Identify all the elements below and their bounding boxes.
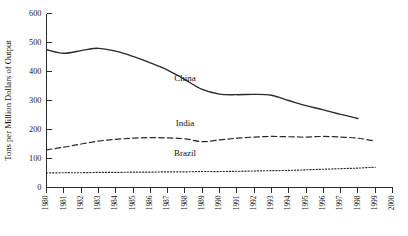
- x-tick-label: 1992: [249, 195, 258, 210]
- x-tick-label: 1997: [335, 195, 344, 210]
- y-tick-label: 200: [29, 125, 41, 134]
- x-tick-label: 1988: [180, 195, 189, 210]
- x-tick-label: 2000: [387, 195, 396, 210]
- series-label-china: China: [174, 73, 196, 83]
- x-tick-label: 1995: [301, 195, 310, 210]
- y-tick-label: 0: [37, 183, 41, 192]
- series-line-brazil: [47, 167, 376, 173]
- x-tick-label: 1986: [145, 195, 154, 210]
- x-tick-label: 1996: [318, 195, 327, 210]
- x-tick-label: 1999: [370, 195, 379, 210]
- series-line-china: [47, 48, 358, 118]
- x-tick-label: 1990: [214, 195, 223, 210]
- chart-container: 0100200300400500600198019811982198319841…: [0, 0, 408, 236]
- x-tick-label: 1998: [353, 195, 362, 210]
- x-tick-label: 1983: [93, 195, 102, 210]
- x-tick-label: 1993: [266, 195, 275, 210]
- y-tick-label: 400: [29, 67, 41, 76]
- x-tick-label: 1989: [197, 195, 206, 210]
- y-axis-title: Tons per Million Dollars of Output: [3, 40, 13, 161]
- series-line-india: [47, 136, 376, 149]
- x-tick-label: 1987: [162, 195, 171, 210]
- y-tick-label: 600: [29, 9, 41, 18]
- y-tick-label: 100: [29, 154, 41, 163]
- x-tick-label: 1982: [76, 195, 85, 210]
- y-tick-label: 300: [29, 96, 41, 105]
- x-tick-label: 1985: [128, 195, 137, 210]
- line-chart: 0100200300400500600198019811982198319841…: [0, 0, 408, 236]
- x-tick-label: 1984: [110, 195, 119, 210]
- y-tick-label: 500: [29, 38, 41, 47]
- x-tick-label: 1994: [283, 195, 292, 210]
- x-tick-label: 1980: [41, 195, 50, 210]
- x-tick-label: 1991: [232, 195, 241, 210]
- x-tick-label: 1981: [59, 195, 68, 210]
- series-label-india: India: [176, 118, 195, 128]
- series-label-brazil: Brazil: [174, 148, 196, 158]
